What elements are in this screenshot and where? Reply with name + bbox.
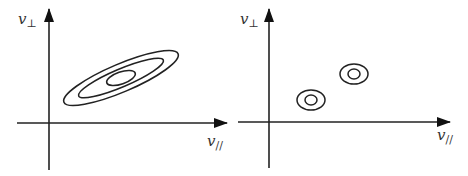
left-x-label: v//: [207, 132, 223, 152]
inner-contour: [105, 67, 137, 88]
left-y-label: v⊥: [18, 10, 37, 30]
cluster-1: [297, 90, 325, 110]
left-panel: v⊥ v//: [17, 9, 227, 170]
cluster-2: [340, 64, 368, 84]
right-x-label: v//: [437, 126, 453, 146]
outer-contour: [58, 41, 183, 115]
right-y-label: v⊥: [240, 10, 259, 30]
right-panel: v⊥ v//: [238, 9, 453, 168]
diagram-canvas: v⊥ v// v⊥ v//: [0, 0, 468, 176]
left-contours: [58, 41, 183, 115]
